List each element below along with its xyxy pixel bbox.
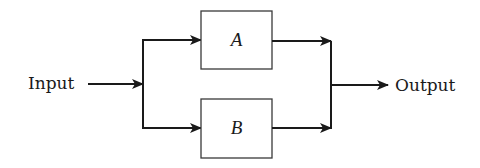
block-b-label: B [201,117,272,139]
input-label: Input [28,73,74,93]
output-label: Output [395,75,455,95]
block-a-label: A [201,29,272,51]
